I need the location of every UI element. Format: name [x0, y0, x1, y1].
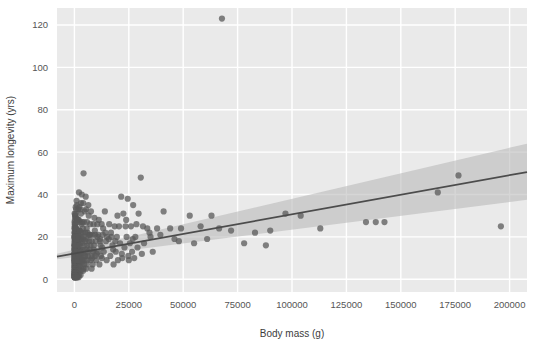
y-tick-label: 20: [37, 231, 48, 242]
y-tick-label: 40: [37, 189, 48, 200]
x-tick-label: 50000: [170, 299, 196, 310]
y-axis-title: Maximum longevity (yrs): [5, 96, 16, 204]
y-tick-label: 60: [37, 147, 48, 158]
x-axis-tick-labels: 0250005000075000100000125000150000175000…: [72, 299, 526, 310]
x-tick-label: 150000: [385, 299, 417, 310]
scatter-plot-figure: 0250005000075000100000125000150000175000…: [0, 0, 543, 343]
x-tick-label: 0: [72, 299, 77, 310]
x-tick-label: 25000: [116, 299, 142, 310]
y-tick-label: 0: [43, 274, 48, 285]
chart-canvas: 0250005000075000100000125000150000175000…: [0, 0, 543, 343]
x-tick-label: 200000: [494, 299, 526, 310]
x-tick-label: 100000: [276, 299, 308, 310]
x-tick-label: 125000: [331, 299, 363, 310]
x-tick-label: 175000: [439, 299, 471, 310]
x-axis-title: Body mass (g): [260, 328, 324, 339]
x-tick-label: 75000: [224, 299, 250, 310]
y-tick-label: 120: [32, 19, 48, 30]
y-tick-label: 80: [37, 104, 48, 115]
y-tick-label: 100: [32, 62, 48, 73]
